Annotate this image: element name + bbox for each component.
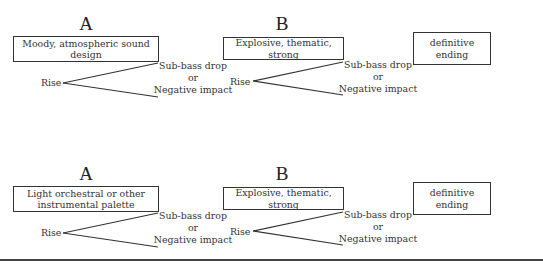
drop-label: Sub-bass drop or Negative impact (339, 59, 417, 95)
ending-box: definitive ending (413, 182, 491, 215)
section-b-box-text: Explosive, thematic, strong (224, 37, 343, 60)
section-a-box: Light orchestral or other instrumental p… (13, 186, 159, 212)
section-b-box: Explosive, thematic, strong (223, 187, 344, 210)
ending-box: definitive ending (413, 32, 491, 65)
ending-box-text: definitive ending (414, 37, 490, 60)
drop-line-2: or (339, 221, 417, 233)
drop-line-3: Negative impact (154, 234, 232, 246)
bottom-divider (0, 259, 543, 261)
drop-line-3: Negative impact (339, 233, 417, 245)
section-a-box-text-line-2: instrumental palette (37, 199, 134, 210)
drop-label: Sub-bass drop or Negative impact (154, 210, 232, 246)
section-a-letter: A (79, 14, 93, 33)
drop-line-2: or (154, 222, 232, 234)
section-b-box: Explosive, thematic, strong (223, 37, 344, 60)
drop-label: Sub-bass drop or Negative impact (339, 209, 417, 245)
section-a-box-text: Moody, atmospheric sound design (14, 38, 158, 61)
section-a-box: Moody, atmospheric sound design (13, 36, 159, 62)
drop-line-2: or (339, 71, 417, 83)
section-b-letter: B (276, 164, 289, 183)
drop-line-3: Negative impact (154, 84, 232, 96)
section-a-box-text-line-1: Light orchestral or other (27, 188, 145, 199)
section-a-letter: A (79, 164, 93, 183)
drop-line-3: Negative impact (339, 83, 417, 95)
rise-label: Rise (230, 227, 250, 236)
ending-box-text: definitive ending (414, 187, 490, 210)
drop-line-1: Sub-bass drop (339, 209, 417, 221)
rise-label: Rise (230, 77, 250, 86)
drop-line-2: or (154, 72, 232, 84)
drop-line-1: Sub-bass drop (339, 59, 417, 71)
rise-label: Rise (41, 78, 61, 87)
section-b-letter: B (276, 14, 289, 33)
rise-label: Rise (41, 228, 61, 237)
drop-line-1: Sub-bass drop (154, 210, 232, 222)
section-b-box-text: Explosive, thematic, strong (224, 187, 343, 210)
drop-line-1: Sub-bass drop (154, 60, 232, 72)
drop-label: Sub-bass drop or Negative impact (154, 60, 232, 96)
